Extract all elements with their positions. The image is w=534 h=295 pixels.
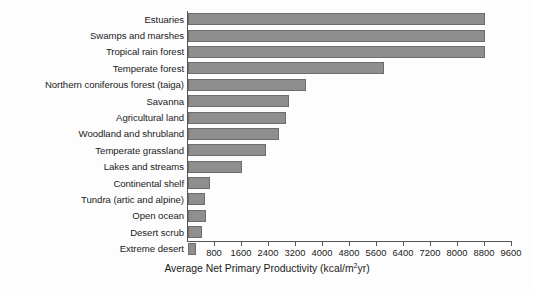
bar (188, 177, 210, 189)
x-tick-mark (457, 241, 458, 246)
x-axis-title: Average Net Primary Productivity (kcal/m… (0, 263, 534, 274)
bar (188, 46, 485, 58)
bar-rows: EstuariesSwamps and marshesTropical rain… (0, 11, 534, 257)
bar-track (188, 177, 210, 189)
plot-area: EstuariesSwamps and marshesTropical rain… (0, 0, 534, 295)
bar-track (188, 210, 206, 222)
x-tick-label: 1600 (231, 247, 252, 258)
bar-track (188, 79, 306, 91)
category-label: Northern coniferous forest (taiga) (0, 79, 184, 90)
category-label: Lakes and streams (0, 161, 184, 172)
category-label: Agricultural land (0, 112, 184, 123)
bar-track (188, 128, 279, 140)
bar-row: Northern coniferous forest (taiga) (0, 77, 534, 93)
bar (188, 226, 202, 238)
bar-row: Continental shelf (0, 175, 534, 191)
bar-track (188, 226, 202, 238)
x-tick-label: 9600 (501, 247, 522, 258)
category-label: Tundra (artic and alpine) (0, 194, 184, 205)
bar (188, 79, 306, 91)
category-label: Swamps and marshes (0, 30, 184, 41)
bar (188, 30, 485, 42)
x-tick-mark (430, 241, 431, 246)
bar-track (188, 193, 205, 205)
x-tick-mark (241, 241, 242, 246)
bar-row: Lakes and streams (0, 159, 534, 175)
bar-row: Swamps and marshes (0, 27, 534, 43)
x-tick-mark (322, 241, 323, 246)
bar (188, 13, 485, 25)
bar (188, 95, 289, 107)
x-tick-label: 8000 (447, 247, 468, 258)
x-tick-mark (295, 241, 296, 246)
bar-row: Tundra (artic and alpine) (0, 191, 534, 207)
bar-row: Estuaries (0, 11, 534, 27)
x-tick-label: 5600 (366, 247, 387, 258)
category-label: Estuaries (0, 14, 184, 25)
x-tick-mark (484, 241, 485, 246)
category-label: Woodland and shrubland (0, 128, 184, 139)
bar-row: Desert scrub (0, 224, 534, 240)
npp-bar-chart: EstuariesSwamps and marshesTropical rain… (0, 0, 534, 295)
x-tick-label: 4800 (339, 247, 360, 258)
category-label: Tropical rain forest (0, 46, 184, 57)
bar-row: Temperate forest (0, 60, 534, 76)
x-tick-mark (268, 241, 269, 246)
category-label: Open ocean (0, 210, 184, 221)
bar (188, 144, 266, 156)
x-tick-label: 3200 (285, 247, 306, 258)
category-label: Desert scrub (0, 227, 184, 238)
category-label: Continental shelf (0, 178, 184, 189)
x-tick-label: 6400 (393, 247, 414, 258)
bar-track (188, 144, 266, 156)
bar-track (188, 30, 485, 42)
x-tick-label: 7200 (420, 247, 441, 258)
bar-track (188, 112, 286, 124)
bar-row: Tropical rain forest (0, 44, 534, 60)
bar (188, 193, 205, 205)
bar-track (188, 95, 289, 107)
bar-row: Temperate grassland (0, 142, 534, 158)
x-tick-mark (376, 241, 377, 246)
bar-track (188, 161, 242, 173)
bar (188, 128, 279, 140)
bar (188, 112, 286, 124)
bar-row: Savanna (0, 93, 534, 109)
x-axis-title-suffix: yr) (357, 263, 369, 274)
bar-track (188, 46, 485, 58)
bar-track (188, 13, 485, 25)
category-label: Savanna (0, 96, 184, 107)
bar-row: Woodland and shrubland (0, 126, 534, 142)
x-tick-label: 8800 (474, 247, 495, 258)
x-tick-mark (511, 241, 512, 246)
bar-row: Agricultural land (0, 109, 534, 125)
bar (188, 210, 206, 222)
x-axis-title-prefix: Average Net Primary Productivity (kcal/m (164, 263, 353, 274)
bar-track (188, 62, 384, 74)
category-label: Temperate forest (0, 63, 184, 74)
x-tick-label: 800 (206, 247, 222, 258)
x-tick-mark (403, 241, 404, 246)
x-tick-mark (214, 241, 215, 246)
bar-row: Open ocean (0, 208, 534, 224)
bar (188, 161, 242, 173)
category-label: Temperate grassland (0, 145, 184, 156)
bar (188, 62, 384, 74)
x-tick-mark (349, 241, 350, 246)
x-tick-label: 4000 (312, 247, 333, 258)
x-tick-label: 2400 (258, 247, 279, 258)
